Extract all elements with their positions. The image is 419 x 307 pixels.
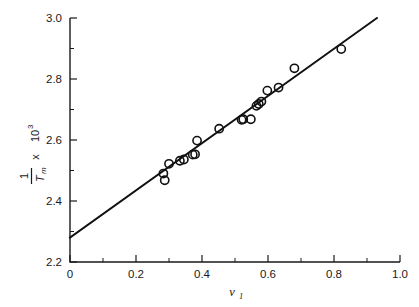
data-point-group <box>159 45 345 184</box>
data-point <box>263 86 271 94</box>
y-tick-label: 3.0 <box>46 12 62 24</box>
y-axis-label-denominator: T <box>34 174 46 182</box>
y-tick-label: 2.4 <box>46 195 63 207</box>
data-point <box>193 137 201 145</box>
x-tick-label: 0.8 <box>326 268 342 280</box>
x-tick-label: 0.6 <box>260 268 276 280</box>
major-tick-group <box>70 18 400 262</box>
y-tick-label: 2.8 <box>46 73 62 85</box>
y-axis-label-exponent: 3 <box>26 124 35 129</box>
axis-frame <box>70 18 400 262</box>
y-axis-label-denominator-subscript: m <box>39 167 48 174</box>
x-axis-label-subscript: 1 <box>239 291 243 301</box>
data-point <box>290 64 298 72</box>
y-tick-label-group: 2.22.42.62.83.0 <box>46 12 63 268</box>
chart-figure: 00.20.40.60.81.0 2.22.42.62.83.0 v 1 1 T… <box>0 0 419 307</box>
y-axis-label-base: 10 <box>29 130 41 142</box>
y-axis-label: 1 T m x 10 3 <box>18 124 48 184</box>
x-axis-label-text: v <box>229 285 235 299</box>
x-tick-label: 1.0 <box>392 268 408 280</box>
x-tick-label: 0.2 <box>128 268 144 280</box>
data-point <box>337 45 345 53</box>
y-axis-label-numerator: 1 <box>18 173 30 179</box>
x-tick-label-group: 00.20.40.60.81.0 <box>67 268 408 280</box>
x-tick-label: 0 <box>67 268 73 280</box>
y-tick-label: 2.6 <box>46 134 62 146</box>
x-tick-label: 0.4 <box>194 268 211 280</box>
minor-tick-group <box>70 49 367 263</box>
x-axis-label: v 1 <box>229 285 243 301</box>
y-axis-label-times: x <box>29 154 41 160</box>
y-tick-label: 2.2 <box>46 256 62 268</box>
scatter-plot: 00.20.40.60.81.0 2.22.42.62.83.0 v 1 1 T… <box>0 0 419 307</box>
